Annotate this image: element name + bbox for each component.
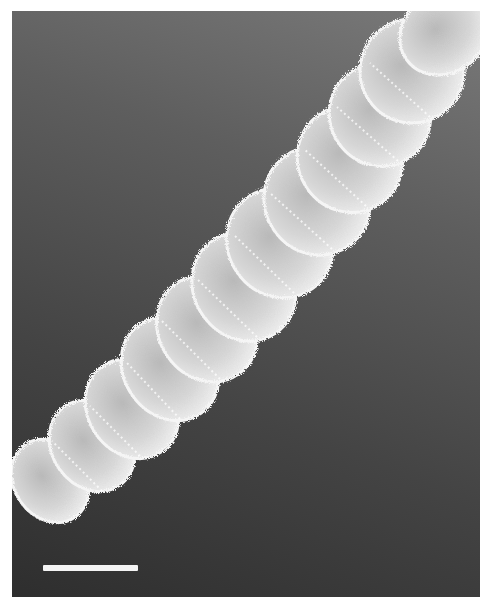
larva-body — [12, 11, 480, 538]
larva-specimen — [12, 11, 480, 597]
scale-bar — [43, 565, 138, 571]
sem-micrograph — [12, 11, 480, 597]
